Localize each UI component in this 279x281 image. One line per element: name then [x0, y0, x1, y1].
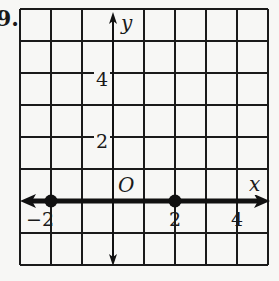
y-axis-label: y [120, 11, 133, 35]
x-tick-neg2: −2 [26, 208, 54, 230]
x-tick-2: 2 [169, 208, 181, 230]
x-axis-label: x [249, 172, 260, 196]
y-tick-2: 2 [96, 130, 108, 152]
y-axis [109, 12, 117, 266]
x-tick-4: 4 [231, 208, 243, 230]
point-neg2 [45, 195, 58, 208]
problem-number: 9. [0, 5, 19, 31]
origin-label: O [118, 173, 134, 197]
y-tick-4: 4 [96, 68, 108, 90]
coordinate-graph: 9. y x O 4 2 −2 [0, 0, 279, 281]
point-2 [169, 195, 182, 208]
